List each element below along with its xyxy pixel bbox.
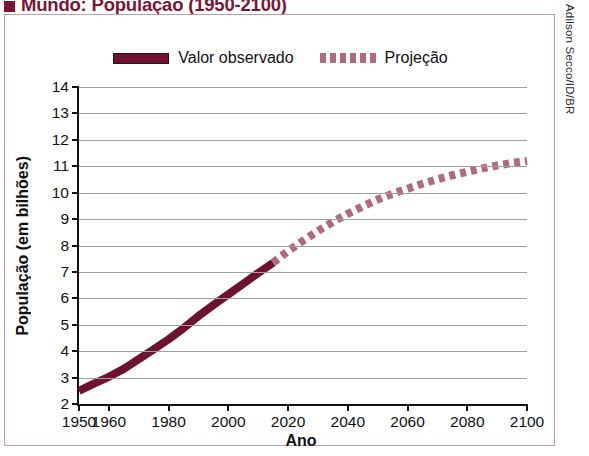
y-axis-tick-label: 8	[60, 237, 69, 255]
x-axis-tick	[407, 404, 409, 411]
y-axis-tick-label: 6	[60, 289, 69, 307]
credit-text: Adilson Secco/ID/BR	[558, 4, 576, 184]
grid-line	[79, 113, 527, 114]
figure-root: Mundo: População (1950-2100) Adilson Sec…	[0, 0, 589, 456]
y-axis-title: População (em bilhões)	[13, 87, 33, 404]
y-axis-tick-label: 7	[60, 263, 69, 281]
y-axis-tick-label: 10	[52, 184, 69, 202]
y-axis-tick	[72, 165, 79, 167]
chart-legend: Valor observado Projeção	[5, 49, 556, 67]
legend-swatch-dotted-icon	[320, 53, 376, 63]
legend-item-projection: Projeção	[320, 49, 448, 67]
y-axis-tick-label: 12	[52, 131, 69, 149]
y-axis-tick-label: 9	[60, 210, 69, 228]
y-axis-tick	[72, 139, 79, 141]
grid-line	[79, 272, 527, 273]
y-axis-tick-label: 3	[60, 369, 69, 387]
y-axis-tick	[72, 86, 79, 88]
x-axis-tick	[108, 404, 110, 411]
legend-label-observed: Valor observado	[178, 49, 293, 67]
y-axis-tick	[72, 350, 79, 352]
grid-line	[79, 166, 527, 167]
y-axis-tick-label: 11	[53, 157, 69, 175]
chart-frame: Valor observado Projeção População (em b…	[4, 14, 555, 446]
x-axis-tick	[168, 404, 170, 411]
y-axis-tick-label: 2	[60, 395, 69, 413]
x-axis-tick-label: 1980	[151, 413, 185, 431]
x-axis-tick	[78, 404, 80, 411]
y-axis-tick	[72, 377, 79, 379]
grid-line	[79, 298, 527, 299]
y-axis-tick	[72, 218, 79, 220]
series-observed	[79, 263, 273, 391]
grid-line	[79, 325, 527, 326]
y-axis-tick-label: 5	[60, 316, 69, 334]
legend-label-projection: Projeção	[385, 49, 448, 67]
grid-line	[79, 140, 527, 141]
x-axis-tick	[227, 404, 229, 411]
grid-line	[79, 351, 527, 352]
x-axis-tick-label: 2000	[211, 413, 245, 431]
y-axis-tick	[72, 297, 79, 299]
x-axis-tick-label: 1960	[92, 413, 126, 431]
y-axis-tick	[72, 245, 79, 247]
y-axis-tick	[72, 112, 79, 114]
x-axis-title: Ano	[77, 432, 525, 450]
grid-line	[79, 378, 527, 379]
legend-item-observed: Valor observado	[113, 49, 293, 67]
legend-swatch-solid-icon	[113, 53, 169, 64]
x-axis-tick-label: 2020	[271, 413, 305, 431]
series-projection	[273, 161, 527, 263]
grid-line	[79, 87, 527, 88]
x-axis-tick	[466, 404, 468, 411]
grid-line	[79, 246, 527, 247]
y-axis-tick	[72, 324, 79, 326]
y-axis-tick-label: 13	[52, 104, 69, 122]
y-axis-tick-label: 4	[60, 342, 69, 360]
y-axis-tick	[72, 271, 79, 273]
x-axis-tick	[526, 404, 528, 411]
y-axis-tick	[72, 192, 79, 194]
x-axis-tick	[287, 404, 289, 411]
x-axis-tick-label: 2080	[450, 413, 484, 431]
x-axis-tick-label: 2040	[331, 413, 365, 431]
x-axis-tick-label: 2060	[390, 413, 424, 431]
grid-line	[79, 219, 527, 220]
y-axis-tick-label: 14	[52, 78, 69, 96]
grid-line	[79, 193, 527, 194]
plot-area: 2345678910111213141950196019802000202020…	[77, 87, 527, 406]
square-bullet-icon	[4, 1, 15, 12]
x-axis-tick	[347, 404, 349, 411]
y-axis-title-text: População (em bilhões)	[14, 156, 32, 336]
x-axis-tick-label: 2100	[510, 413, 544, 431]
